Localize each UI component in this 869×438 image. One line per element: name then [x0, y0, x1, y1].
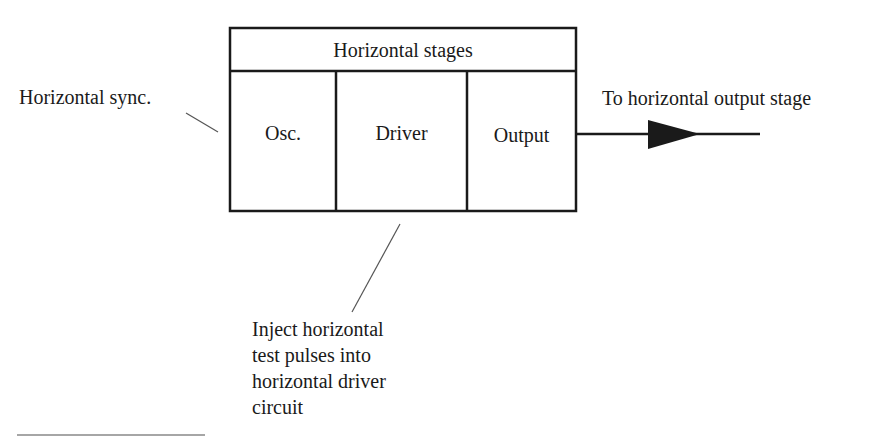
inject-note-line: test pulses into — [252, 342, 386, 368]
inject-note: Inject horizontal test pulses into horiz… — [252, 316, 386, 420]
stage-driver: Driver — [336, 120, 467, 146]
arrowhead-icon — [648, 120, 700, 149]
inject-note-line: Inject horizontal — [252, 316, 386, 342]
sync-leader-line — [186, 113, 218, 132]
inject-note-line: horizontal driver — [252, 368, 386, 394]
output-destination-label: To horizontal output stage — [602, 85, 811, 111]
inject-note-line: circuit — [252, 394, 386, 420]
inject-leader-line — [352, 224, 400, 312]
stage-output: Output — [467, 122, 576, 148]
stage-osc: Osc. — [230, 120, 336, 146]
diagram-canvas — [0, 0, 869, 438]
sync-input-label: Horizontal sync. — [19, 84, 151, 110]
block-title: Horizontal stages — [230, 35, 576, 65]
